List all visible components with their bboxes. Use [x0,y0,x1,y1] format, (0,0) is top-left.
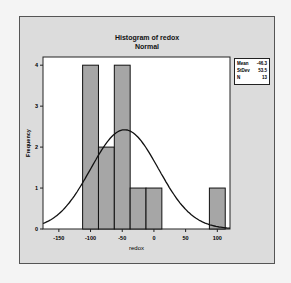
legend-row-n: N13 [237,74,267,81]
x-tick-label: 100 [213,235,222,241]
histogram-bar [83,65,99,229]
legend-row-mean: Mean-46.3 [237,60,267,67]
histogram-bar [130,188,146,229]
histogram-bar [209,188,225,229]
histogram-bar [98,147,114,229]
x-tick-label: -100 [85,235,96,241]
y-tick-label: 3 [35,103,38,109]
histogram-plot: -150-100-5005010001234redoxFrequency [0,0,291,283]
legend-box: Mean-46.3 StDev53.5 N13 [234,58,270,85]
y-tick-label: 1 [35,185,38,191]
x-tick-label: -150 [53,235,64,241]
x-tick-label: 50 [183,235,189,241]
histogram-bar [146,188,162,229]
y-tick-label: 0 [35,226,38,232]
y-tick-label: 2 [35,144,38,150]
x-tick-label: -50 [118,235,126,241]
histogram-bar [114,65,130,229]
x-tick-label: 0 [152,235,155,241]
y-axis-label: Frequency [25,128,31,157]
x-axis-label: redox [129,245,144,251]
y-tick-label: 4 [35,62,39,68]
legend-row-stdev: StDev53.5 [237,67,267,74]
